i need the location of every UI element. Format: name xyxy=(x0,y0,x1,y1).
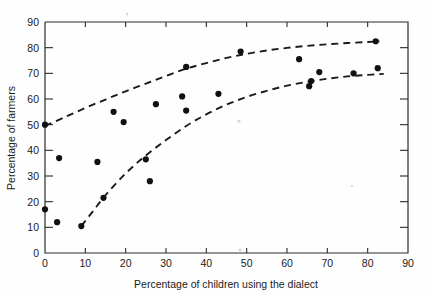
scatter-plot-figure: 0102030405060708090 0102030405060708090 … xyxy=(0,0,432,297)
y-tick-label: 10 xyxy=(27,221,39,233)
x-tick-label: 70 xyxy=(321,257,333,269)
data-point xyxy=(100,195,106,201)
x-tick-label: 80 xyxy=(362,257,374,269)
data-point xyxy=(238,48,244,54)
x-axis-title: Percentage of children using the dialect xyxy=(134,278,318,290)
trend-curves xyxy=(45,41,384,226)
data-point xyxy=(110,109,116,115)
y-tick-label: 40 xyxy=(27,144,39,156)
y-axis-title: Percentage of farmers xyxy=(5,86,17,190)
right-axis-ticks xyxy=(400,48,408,228)
data-point xyxy=(94,159,100,165)
x-tick-label: 10 xyxy=(79,257,91,269)
y-tick-label: 70 xyxy=(27,67,39,79)
x-tick-label: 30 xyxy=(160,257,172,269)
data-point xyxy=(183,107,189,113)
data-point xyxy=(54,219,60,225)
data-point xyxy=(296,56,302,62)
data-point xyxy=(215,91,221,97)
data-point xyxy=(42,122,48,128)
y-tick-label: 0 xyxy=(33,247,39,259)
data-point xyxy=(56,155,62,161)
data-point xyxy=(153,101,159,107)
y-tick-label: 50 xyxy=(27,119,39,131)
data-point xyxy=(147,178,153,184)
y-tick-label: 60 xyxy=(27,93,39,105)
chart-canvas: 0102030405060708090 0102030405060708090 … xyxy=(0,0,432,297)
x-tick-label: 40 xyxy=(200,257,212,269)
x-tick-label: 90 xyxy=(402,257,414,269)
y-tick-label: 30 xyxy=(27,170,39,182)
data-point xyxy=(375,65,381,71)
paper-texture xyxy=(126,13,353,252)
data-point xyxy=(183,64,189,70)
data-point xyxy=(308,78,314,84)
data-point xyxy=(179,93,185,99)
data-point xyxy=(143,156,149,162)
x-axis-ticks: 0102030405060708090 xyxy=(42,22,414,269)
plot-frame xyxy=(45,22,408,253)
data-points xyxy=(42,38,381,229)
trend-curve-upper-envelope xyxy=(45,41,380,126)
data-point xyxy=(121,119,127,125)
data-point xyxy=(42,206,48,212)
x-tick-label: 60 xyxy=(281,257,293,269)
data-point xyxy=(373,38,379,44)
data-point xyxy=(350,70,356,76)
x-tick-label: 50 xyxy=(241,257,253,269)
y-tick-label: 80 xyxy=(27,42,39,54)
x-tick-label: 0 xyxy=(42,257,48,269)
y-axis-ticks: 0102030405060708090 xyxy=(27,16,53,259)
x-tick-label: 20 xyxy=(120,257,132,269)
data-point xyxy=(78,223,84,229)
trend-curve-lower-envelope xyxy=(81,74,384,226)
data-point xyxy=(316,69,322,75)
y-tick-label: 90 xyxy=(27,16,39,28)
y-tick-label: 20 xyxy=(27,196,39,208)
